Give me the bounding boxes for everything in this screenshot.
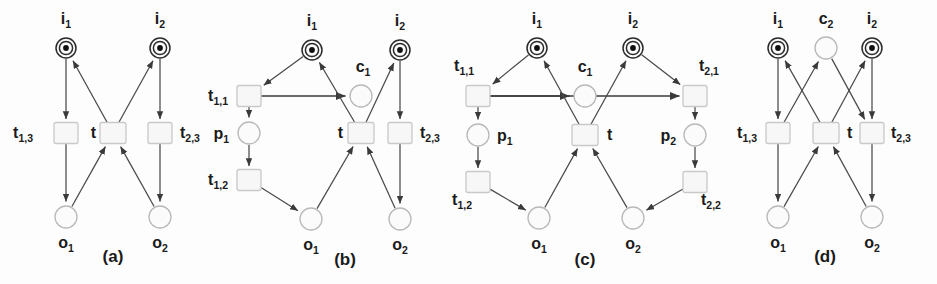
place-a-o1[interactable] — [55, 206, 77, 228]
arc-c-i2-to-t21 — [642, 55, 681, 85]
label-subscript: 2,3 — [896, 132, 911, 144]
arc-c-t12-to-o1 — [490, 189, 526, 210]
label-subscript: 1 — [541, 243, 547, 255]
place-circle — [350, 85, 372, 107]
label-subscript: 2 — [635, 243, 641, 255]
transition-rect — [100, 123, 126, 144]
label-subscript: 1 — [507, 135, 513, 147]
token-dot — [534, 45, 540, 51]
transition-c-t12[interactable] — [466, 172, 490, 193]
label-subscript: 1 — [777, 18, 783, 30]
place-b-o1[interactable] — [300, 208, 322, 230]
place-label-c-o2: o2 — [625, 235, 641, 255]
transition-b-t[interactable] — [348, 123, 374, 144]
transition-b-t23[interactable] — [388, 123, 412, 144]
label-base: o — [303, 236, 313, 253]
place-label-d-o2: o2 — [864, 234, 880, 254]
arc-a-o2-to-t — [121, 147, 155, 207]
place-c-i1[interactable] — [527, 38, 547, 58]
arc-c-i1-to-t11 — [493, 55, 529, 84]
transition-c-t[interactable] — [572, 125, 598, 146]
place-c-p1[interactable] — [467, 124, 489, 146]
arc-c-o1-to-t — [545, 149, 578, 208]
transition-label-d-t: t — [847, 124, 853, 141]
place-a-i1[interactable] — [56, 38, 76, 58]
label-base: o — [58, 234, 68, 251]
place-label-b-i1: i1 — [307, 12, 317, 32]
transition-a-t13[interactable] — [54, 123, 78, 144]
place-label-c-i2: i2 — [628, 10, 638, 30]
arc-d-t13-to-c2 — [784, 62, 819, 123]
place-label-c-i1: i1 — [532, 10, 542, 30]
place-d-i1[interactable] — [768, 38, 788, 58]
place-b-i2[interactable] — [390, 40, 410, 60]
place-a-i2[interactable] — [150, 38, 170, 58]
label-subscript: 1 — [223, 133, 229, 145]
place-label-a-o1: o1 — [58, 234, 74, 254]
transition-d-t13[interactable] — [766, 123, 790, 144]
transition-label-c-t12: t1,2 — [452, 191, 472, 211]
arc-b-t12-to-o1 — [261, 188, 298, 211]
place-b-i1[interactable] — [302, 40, 322, 60]
place-c-i2[interactable] — [623, 38, 643, 58]
arc-d-o2-to-t — [833, 147, 866, 207]
token-dot — [775, 45, 781, 51]
place-c-p2[interactable] — [684, 124, 706, 146]
transition-a-t23[interactable] — [148, 123, 172, 144]
transition-b-t11[interactable] — [237, 86, 261, 107]
transition-c-t11[interactable] — [466, 86, 490, 107]
transition-label-c-t11: t1,1 — [454, 57, 474, 77]
place-c-c1[interactable] — [574, 85, 596, 107]
place-b-c1[interactable] — [350, 85, 372, 107]
transition-c-t22[interactable] — [683, 172, 707, 193]
transition-label-c-t: t — [607, 126, 613, 143]
token-dot — [63, 45, 69, 51]
transition-d-t[interactable] — [813, 123, 839, 144]
transition-label-d-t23: t2,3 — [891, 124, 911, 144]
arc-a-t-to-i2 — [119, 61, 153, 123]
arc-a-t-to-i1 — [73, 61, 107, 123]
label-subscript: 2 — [828, 18, 834, 30]
label-base: o — [864, 234, 874, 251]
place-b-p1[interactable] — [238, 122, 260, 144]
place-circle — [861, 206, 883, 228]
label-subscript: 1,2 — [457, 199, 472, 211]
label-subscript: 1,2 — [213, 179, 228, 191]
transition-d-t23[interactable] — [860, 123, 884, 144]
arc-b-i1-to-t11 — [264, 57, 303, 86]
label-base: c — [578, 58, 587, 75]
transition-a-t[interactable] — [100, 123, 126, 144]
label-subscript: 1,1 — [213, 95, 228, 107]
label-base: t — [338, 124, 344, 141]
place-label-d-i2: i2 — [867, 10, 877, 30]
transition-c-t21[interactable] — [683, 86, 707, 107]
place-d-i2[interactable] — [862, 38, 882, 58]
place-d-c2[interactable] — [815, 37, 837, 59]
label-base: o — [770, 234, 780, 251]
place-d-o2[interactable] — [861, 206, 883, 228]
transition-rect — [683, 86, 707, 107]
place-circle — [55, 206, 77, 228]
place-c-o1[interactable] — [528, 207, 550, 229]
transition-rect — [572, 125, 598, 146]
place-circle — [767, 206, 789, 228]
place-label-b-o1: o1 — [303, 236, 319, 256]
place-label-c-o1: o1 — [531, 235, 547, 255]
label-subscript: 2 — [670, 135, 676, 147]
place-a-o2[interactable] — [149, 206, 171, 228]
arc-b-o2-to-t — [367, 147, 395, 208]
transition-label-b-t11: t1,1 — [208, 87, 228, 107]
transition-b-t12[interactable] — [237, 170, 261, 191]
arc-d-t-to-i1 — [785, 61, 820, 123]
label-subscript: 2 — [874, 242, 880, 254]
place-c-o2[interactable] — [622, 207, 644, 229]
place-b-o2[interactable] — [389, 208, 411, 230]
place-circle — [815, 37, 837, 59]
place-d-o1[interactable] — [767, 206, 789, 228]
arc-b-o1-to-t — [317, 147, 353, 209]
place-circle — [574, 85, 596, 107]
transition-rect — [813, 123, 839, 144]
label-subscript: 1 — [311, 20, 317, 32]
place-label-c-p1: p1 — [497, 127, 513, 147]
label-base: o — [531, 235, 541, 252]
